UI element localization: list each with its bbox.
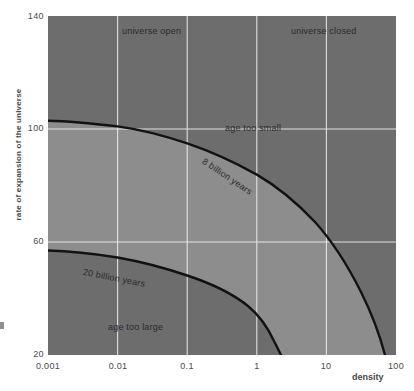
y-tick-60: 60 — [14, 236, 44, 246]
x-tick-0.1: 0.1 — [167, 361, 207, 371]
page-edge-artifact — [0, 322, 4, 329]
y-tick-20: 20 — [14, 349, 44, 359]
y-tick-140: 140 — [14, 11, 44, 21]
annotation-universe-closed: universe closed — [291, 26, 357, 36]
annotation-age-too-small: age too small — [225, 123, 281, 133]
expansion-rate-vs-density-chart: rate of expansion of the universe 140 10… — [0, 0, 414, 391]
y-tick-100: 100 — [14, 123, 44, 133]
x-tick-0.001: 0.001 — [28, 361, 68, 371]
x-tick-1: 1 — [237, 361, 277, 371]
x-axis-title: density — [352, 372, 384, 382]
plot-area: universe open universe closed age too sm… — [48, 16, 396, 355]
annotation-age-too-large: age too large — [108, 322, 163, 332]
x-tick-0.01: 0.01 — [98, 361, 138, 371]
annotation-universe-open: universe open — [122, 26, 181, 36]
x-tick-10: 10 — [306, 361, 346, 371]
y-axis-title: rate of expansion of the universe — [14, 75, 23, 235]
x-tick-100: 100 — [376, 361, 414, 371]
plot-svg — [48, 16, 396, 355]
